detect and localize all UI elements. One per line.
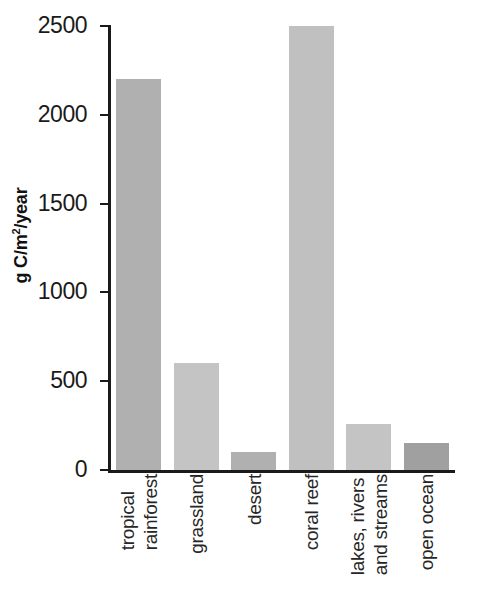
x-axis-category-label-line: tropical xyxy=(117,491,138,550)
y-axis-tick-label: 1500 xyxy=(38,189,87,216)
y-axis-tick: 2000 xyxy=(100,114,110,116)
bar-slot xyxy=(231,26,276,470)
bar-series xyxy=(110,26,455,470)
bar-chart-figure: ons g C/m2/year 05001000150020002500 tro… xyxy=(0,0,485,607)
x-axis-category-label-line: and streams xyxy=(369,474,392,575)
x-axis-category-label-line: coral reef xyxy=(301,474,322,550)
x-axis-category-label-line: open ocean xyxy=(416,474,437,570)
x-axis-category-label: tropicalrainforest xyxy=(110,474,168,607)
y-axis-title-superscript: 2 xyxy=(11,228,23,234)
x-axis-line xyxy=(108,470,455,473)
x-axis-category-label-line: lakes, rivers xyxy=(347,478,368,575)
bar[interactable] xyxy=(346,424,391,470)
x-axis-category-label: desert xyxy=(225,474,283,607)
y-axis-tick-label: 2500 xyxy=(38,12,87,39)
bar-slot xyxy=(174,26,219,470)
bar[interactable] xyxy=(231,452,276,470)
y-axis-title: g C/m2/year xyxy=(0,0,44,470)
x-axis-category-label: lakes, riversand streams xyxy=(340,474,398,607)
y-axis-tick-label: 2000 xyxy=(38,100,87,127)
x-axis-category-label-line: grassland xyxy=(186,474,207,554)
bar-slot xyxy=(289,26,334,470)
bar[interactable] xyxy=(174,363,219,470)
x-axis-category-label: coral reef xyxy=(283,474,341,607)
caption-fragment: ons xyxy=(0,484,38,534)
x-axis-category-label-line: rainforest xyxy=(139,474,162,550)
bar-slot xyxy=(404,26,449,470)
bar[interactable] xyxy=(289,26,334,470)
bar[interactable] xyxy=(404,443,449,470)
plot-area: 05001000150020002500 xyxy=(110,26,455,470)
bar-slot xyxy=(346,26,391,470)
x-axis-category-label: grassland xyxy=(168,474,226,607)
bar-slot xyxy=(116,26,161,470)
y-axis-tick: 0 xyxy=(100,469,110,471)
x-axis-category-labels: tropicalrainforestgrasslanddesertcoral r… xyxy=(110,474,455,607)
x-axis-category-label: open ocean xyxy=(398,474,456,607)
y-axis-tick: 2500 xyxy=(100,25,110,27)
y-axis-tick: 1000 xyxy=(100,291,110,293)
bar[interactable] xyxy=(116,79,161,470)
y-axis-tick-label: 1000 xyxy=(38,278,87,305)
y-axis-tick: 500 xyxy=(100,380,110,382)
y-axis-tick-label: 0 xyxy=(75,456,87,483)
y-axis-tick-label: 500 xyxy=(50,367,87,394)
y-axis-title-text: g C/m2/year xyxy=(12,187,33,283)
y-axis-tick: 1500 xyxy=(100,203,110,205)
x-axis-category-label-line: desert xyxy=(243,474,264,525)
